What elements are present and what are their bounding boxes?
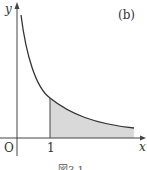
x-axis-label: x bbox=[139, 141, 146, 153]
figure: y (b) O 1 x 図3.1 bbox=[0, 0, 147, 170]
shaded-area bbox=[50, 98, 134, 138]
plot-graphic bbox=[0, 0, 147, 170]
tick-label-1: 1 bbox=[47, 142, 55, 154]
caption: 図3.1 bbox=[58, 165, 84, 170]
curve bbox=[21, 15, 134, 128]
y-axis-arrow-icon bbox=[15, 2, 20, 9]
y-axis-label: y bbox=[5, 3, 12, 15]
origin-label: O bbox=[4, 142, 14, 154]
panel-label: (b) bbox=[118, 9, 135, 21]
